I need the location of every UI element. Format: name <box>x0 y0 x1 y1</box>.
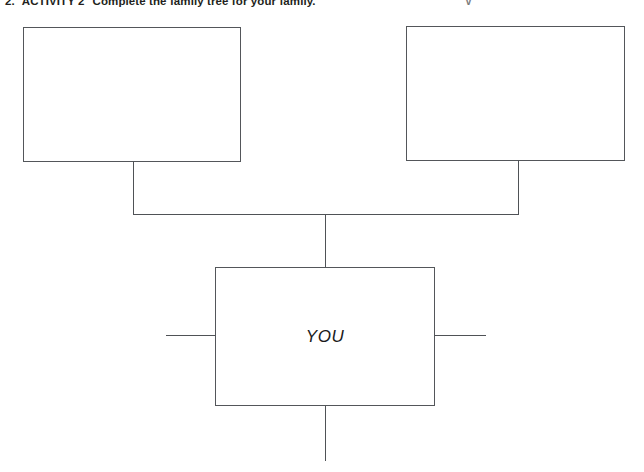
connector-union-bar <box>133 214 519 215</box>
activity-trailing-marker: v <box>316 0 472 7</box>
activity-header: 2.ACTIVITY 2Complete the family tree for… <box>0 0 644 9</box>
connector-you-drop <box>325 214 326 267</box>
connector-right-stub <box>434 335 486 336</box>
worksheet-page: 2.ACTIVITY 2Complete the family tree for… <box>0 0 644 472</box>
activity-header-text: 2.ACTIVITY 2Complete the family tree for… <box>0 0 471 9</box>
activity-label: ACTIVITY 2 <box>22 0 93 7</box>
connector-left-stub <box>166 335 216 336</box>
family-tree-box-you[interactable]: YOU <box>215 267 435 406</box>
connector-bottom-stub <box>325 406 326 461</box>
activity-number: 2. <box>5 0 22 7</box>
connector-right-parent-drop <box>518 160 519 215</box>
family-tree-box-parent-right[interactable] <box>406 26 625 161</box>
family-tree-box-parent-left[interactable] <box>23 27 241 162</box>
family-tree-box-you-label: YOU <box>306 327 344 347</box>
activity-instruction: Complete the family tree for your family… <box>93 0 316 7</box>
connector-left-parent-drop <box>133 161 134 215</box>
